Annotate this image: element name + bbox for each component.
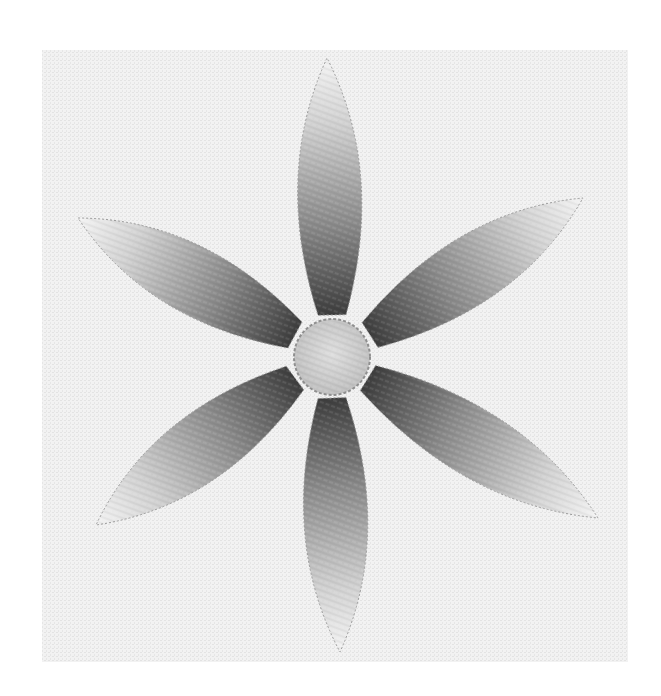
center-thread-texture bbox=[296, 321, 368, 393]
flower-center bbox=[294, 319, 370, 395]
embroidery-photo bbox=[0, 0, 661, 696]
